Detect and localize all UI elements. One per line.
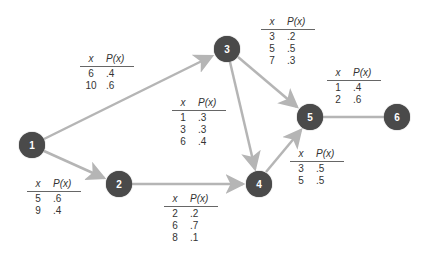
col-x: x xyxy=(327,67,349,79)
cell-x: 3 xyxy=(290,163,312,175)
table-row: 5.5 xyxy=(261,43,315,55)
table-row: 6.7 xyxy=(164,220,218,232)
cell-x: 8 xyxy=(164,232,186,244)
node-2: 2 xyxy=(106,171,132,197)
cell-px: .1 xyxy=(186,232,218,244)
cell-px: .3 xyxy=(194,124,226,136)
prob-table-1-2: xP(x) 5.6 9.4 xyxy=(27,178,81,217)
table-row: 3.2 xyxy=(261,31,315,43)
col-px: P(x) xyxy=(283,16,315,28)
table-row: 2.6 xyxy=(327,94,381,106)
table-row: 9.4 xyxy=(27,205,81,217)
cell-x: 6 xyxy=(80,68,102,80)
node-3: 3 xyxy=(214,36,240,62)
table-row: 3.5 xyxy=(290,163,344,175)
cell-x: 1 xyxy=(327,82,349,94)
node-label: 5 xyxy=(307,112,313,123)
cell-px: .3 xyxy=(283,55,315,67)
cell-x: 7 xyxy=(261,55,283,67)
cell-x: 1 xyxy=(172,112,194,124)
col-x: x xyxy=(290,148,312,160)
prob-table-3-4: xP(x) 1.3 3.3 6.4 xyxy=(172,97,226,148)
col-px: P(x) xyxy=(194,97,226,109)
col-x: x xyxy=(164,193,186,205)
table-row: 6.4 xyxy=(172,136,226,148)
node-label: 6 xyxy=(394,112,400,123)
prob-table-1-3: xP(x) 6.4 10.6 xyxy=(80,53,134,92)
node-1: 1 xyxy=(19,132,45,158)
cell-x: 10 xyxy=(80,80,102,92)
cell-px: .2 xyxy=(186,208,218,220)
cell-px: .5 xyxy=(312,163,344,175)
node-4: 4 xyxy=(246,171,272,197)
cell-px: .6 xyxy=(102,80,134,92)
col-px: P(x) xyxy=(312,148,344,160)
table-row: 3.3 xyxy=(172,124,226,136)
cell-px: .4 xyxy=(49,205,81,217)
cell-x: 5 xyxy=(261,43,283,55)
table-row: 2.2 xyxy=(164,208,218,220)
cell-px: .3 xyxy=(194,112,226,124)
cell-px: .4 xyxy=(194,136,226,148)
cell-px: .4 xyxy=(349,82,381,94)
cell-px: .5 xyxy=(283,43,315,55)
node-5: 5 xyxy=(297,104,323,130)
cell-x: 3 xyxy=(261,31,283,43)
table-row: 1.3 xyxy=(172,112,226,124)
cell-px: .7 xyxy=(186,220,218,232)
cell-px: .6 xyxy=(349,94,381,106)
cell-x: 6 xyxy=(164,220,186,232)
edge-1-2 xyxy=(44,151,104,178)
node-label: 3 xyxy=(224,44,230,55)
edge-3-4 xyxy=(230,62,255,169)
prob-table-4-5: xP(x) 3.5 5.5 xyxy=(290,148,344,187)
cell-px: .4 xyxy=(102,68,134,80)
table-row: 5.6 xyxy=(27,193,81,205)
col-x: x xyxy=(27,178,49,190)
col-px: P(x) xyxy=(349,67,381,79)
table-row: 10.6 xyxy=(80,80,134,92)
table-row: 8.1 xyxy=(164,232,218,244)
col-x: x xyxy=(172,97,194,109)
cell-px: .5 xyxy=(312,175,344,187)
col-x: x xyxy=(80,53,102,65)
table-row: 6.4 xyxy=(80,68,134,80)
prob-table-3-5: xP(x) 3.2 5.5 7.3 xyxy=(261,16,315,67)
table-row: 5.5 xyxy=(290,175,344,187)
cell-x: 2 xyxy=(327,94,349,106)
cell-x: 3 xyxy=(172,124,194,136)
cell-px: .2 xyxy=(283,31,315,43)
cell-x: 2 xyxy=(164,208,186,220)
node-6: 6 xyxy=(384,104,410,130)
cell-x: 5 xyxy=(27,193,49,205)
col-x: x xyxy=(261,16,283,28)
table-row: 1.4 xyxy=(327,82,381,94)
node-label: 1 xyxy=(29,140,35,151)
col-px: P(x) xyxy=(49,178,81,190)
table-row: 7.3 xyxy=(261,55,315,67)
cell-x: 6 xyxy=(172,136,194,148)
cell-x: 5 xyxy=(290,175,312,187)
cell-x: 9 xyxy=(27,205,49,217)
prob-table-5-6: xP(x) 1.4 2.6 xyxy=(327,67,381,106)
cell-px: .6 xyxy=(49,193,81,205)
prob-table-2-4: xP(x) 2.2 6.7 8.1 xyxy=(164,193,218,244)
node-label: 2 xyxy=(116,179,122,190)
col-px: P(x) xyxy=(186,193,218,205)
col-px: P(x) xyxy=(102,53,134,65)
node-label: 4 xyxy=(256,179,262,190)
